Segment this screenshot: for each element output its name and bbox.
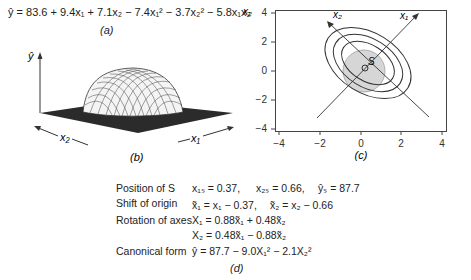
caption-d: (d) (230, 262, 243, 274)
value: x₁ₛ = 0.37, (192, 182, 240, 194)
caption-a: (a) (100, 24, 113, 36)
caption-c: (c) (355, 149, 368, 161)
stationary-point-label: S (368, 56, 375, 67)
y-tick: 2 (261, 36, 267, 47)
response-surface-plot: ŷ x₂ x₁ (b) (0, 40, 240, 180)
fitted-equation: ŷ = 83.6 + 9.4x₁ + 7.1x₂ − 7.4x₁² − 3.7x… (8, 6, 251, 18)
value: X₁ = 0.88x̃₁ + 0.48x̃₂ (192, 214, 285, 226)
x2-label: x₂ (59, 131, 71, 143)
contour-plot: x₂ 4 2 0 −2 −4 −4 −2 0 2 4 (c) x₁ (240, 0, 471, 162)
row-label-shift: Shift of origin (116, 197, 177, 209)
caption-b: (b) (130, 151, 144, 163)
x-tick: 0 (358, 138, 364, 149)
y-tick: 4 (261, 7, 267, 18)
value: X₂ = 0.48x̃₁ − 0.88x̃₂ (192, 229, 286, 241)
y-tick: 0 (261, 65, 267, 76)
x-tick: 2 (398, 138, 404, 149)
x-tick: −2 (314, 138, 326, 149)
value: x₂ₛ = 0.66, (256, 182, 305, 194)
value: x̃₂ = x₂ − 0.66 (270, 199, 333, 211)
c-y-axis-label: x₂ (242, 6, 252, 17)
row-label-rotation: Rotation of axes (116, 214, 192, 226)
y-hat-label: ŷ (27, 50, 35, 62)
row-label-canonical: Canonical form (116, 245, 187, 257)
x-tick: −4 (273, 138, 285, 149)
x1-label: x₁ (190, 132, 201, 144)
X1-axis-label: x₁ (399, 10, 408, 21)
X2-axis-label: x₂ (332, 9, 342, 20)
row-label-position: Position of S (116, 182, 175, 194)
y-tick: −2 (256, 94, 268, 105)
value: ŷ = 87.7 − 9.0X₁² − 2.1X₂² (192, 245, 311, 257)
value: ŷₛ = 87.7 (318, 182, 360, 194)
value: x̃₁ = x₁ − 0.37, (192, 199, 257, 211)
x-tick: 4 (439, 138, 445, 149)
y-tick: −4 (256, 123, 268, 134)
